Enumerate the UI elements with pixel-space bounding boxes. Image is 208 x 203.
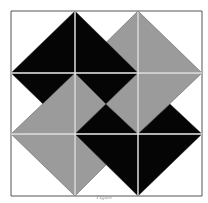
figure-caption: Figure — [0, 194, 208, 200]
quilt-block-diagram — [0, 0, 208, 203]
